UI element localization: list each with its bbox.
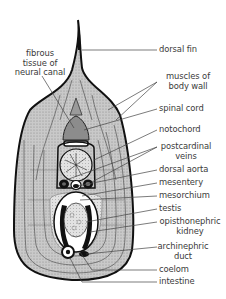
label-mesorchium: mesorchium	[159, 191, 210, 201]
label-muscles-of-body-wall: muscles of body wall	[158, 72, 218, 91]
vessels	[59, 180, 93, 190]
label-line: testis	[159, 203, 181, 213]
label-testis: testis	[159, 204, 181, 214]
label-coelom: coelom	[159, 265, 189, 275]
label-dorsal-fin: dorsal fin	[159, 45, 197, 55]
label-line: duct	[157, 252, 209, 262]
testis	[64, 203, 88, 237]
label-notochord: notochord	[159, 125, 201, 135]
label-opisthonephric-kidney: opisthonephric kidney	[157, 217, 223, 236]
label-line: dorsal aorta	[159, 164, 208, 174]
label-archinephric-duct: archinephric duct	[157, 242, 209, 261]
label-line: kidney	[157, 227, 223, 237]
label-line: coelom	[159, 264, 189, 274]
label-line: notochord	[159, 124, 201, 134]
label-intestine: intestine	[159, 277, 195, 287]
label-mesentery: mesentery	[159, 178, 203, 188]
label-dorsal-aorta: dorsal aorta	[159, 165, 208, 175]
label-line: mesentery	[159, 177, 203, 187]
label-line: dorsal fin	[159, 44, 197, 54]
label-line: veins	[157, 152, 215, 162]
label-line: spinal cord	[159, 103, 204, 113]
label-fibrous-tissue: fibrous tissue of neural canal	[14, 49, 66, 78]
label-line: body wall	[158, 82, 218, 92]
label-line: intestine	[159, 276, 195, 286]
label-spinal-cord: spinal cord	[159, 104, 204, 114]
label-postcardinal-veins: postcardinal veins	[157, 142, 215, 161]
label-line: neural canal	[14, 68, 66, 78]
label-line: mesorchium	[159, 190, 210, 200]
